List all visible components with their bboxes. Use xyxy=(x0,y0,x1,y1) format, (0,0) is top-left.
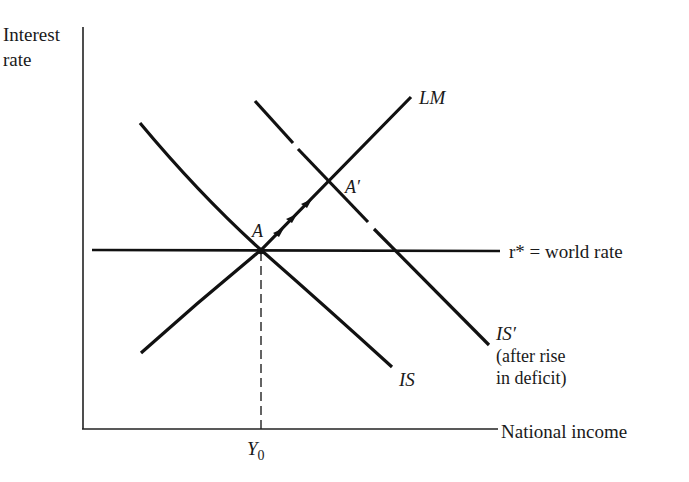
point-a-marker xyxy=(258,248,264,254)
lm-label: LM xyxy=(418,87,447,108)
is-prime-label: IS′ xyxy=(495,323,517,344)
world-rate-line xyxy=(92,250,500,251)
point-a-prime-label: A′ xyxy=(344,177,361,197)
is-label: IS xyxy=(398,369,415,390)
x-axis-label: National income xyxy=(501,421,627,442)
lm-curve xyxy=(141,97,411,353)
is-prime-note-line1: (after rise xyxy=(496,346,565,367)
y0-label: Y0 xyxy=(247,438,265,463)
is-prime-curve-segment-1 xyxy=(255,101,293,143)
is-prime-curve-segment-3 xyxy=(374,229,489,345)
is-lm-diagram: Interest rate National income Y0 LM IS I… xyxy=(0,0,689,482)
y0-subscript: 0 xyxy=(258,448,265,463)
point-a-label: A xyxy=(251,221,264,241)
y-axis-label-line2: rate xyxy=(3,49,31,70)
movement-arrows xyxy=(273,199,312,237)
world-rate-label: r* = world rate xyxy=(509,241,623,262)
y-axis-label-line1: Interest xyxy=(3,24,61,45)
is-prime-note-line2: in deficit) xyxy=(496,368,566,389)
